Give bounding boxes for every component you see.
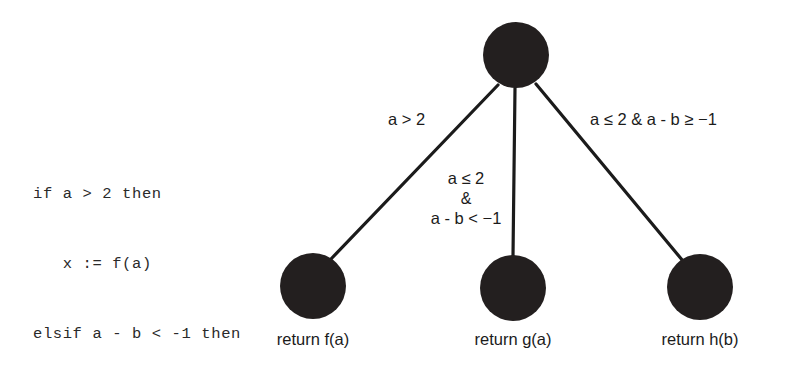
decision-tree-figure: if a > 2 then x := f(a) elsif a - b < -1… [0,0,787,369]
leaf-label-middle: return g(a) [474,330,551,349]
edge-label-left: a > 2 [388,110,425,129]
edge-label-middle: a ≤ 2 & a - b < −1 [420,168,512,229]
leaf-label-right: return h(b) [661,330,738,349]
leaf-node-left [280,253,346,319]
leaf-node-middle [480,255,546,321]
leaf-label-left: return f(a) [277,330,349,349]
tree-graph [0,0,787,369]
edge-label-middle-line-1: a ≤ 2 [420,168,512,189]
leaf-node-right [667,254,733,320]
edge-label-middle-line-3: a - b < −1 [420,208,512,229]
edge-root-to-middle [513,88,515,256]
root-node [483,22,549,88]
edge-label-middle-line-2: & [420,189,512,208]
edge-label-right: a ≤ 2 & a - b ≥ −1 [590,110,717,129]
